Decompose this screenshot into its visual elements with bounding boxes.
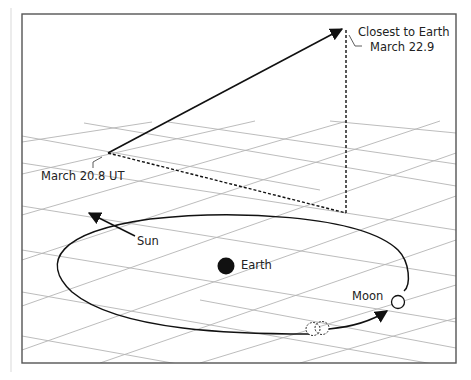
- moon-icon: [392, 296, 405, 309]
- orbit-direction-arrow: [329, 311, 387, 329]
- orbit-diagram: Closest to Earth March 22.9 March 20.8 U…: [0, 0, 471, 380]
- closest-label: Closest to Earth: [358, 25, 450, 39]
- earth-label: Earth: [241, 258, 272, 272]
- projection-lines: [108, 30, 346, 213]
- closest-date-label: March 22.9: [370, 40, 434, 54]
- diagram-frame: [22, 14, 456, 363]
- start-date-label: March 20.8 UT: [41, 169, 125, 183]
- moon-label: Moon: [352, 289, 383, 303]
- sun-label: Sun: [137, 234, 159, 248]
- start-leader-line: [93, 157, 102, 168]
- approach-vector-arrow: [108, 29, 342, 153]
- earth-icon: [218, 258, 235, 275]
